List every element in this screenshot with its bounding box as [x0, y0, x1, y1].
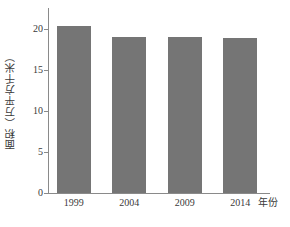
x-tick-label: 2009 [175, 198, 195, 208]
x-tick-label: 2014 [230, 198, 250, 208]
bar-chart: 面积（万平方千米） 05101520 1999200420092014 年份 [0, 0, 290, 227]
y-tick-mark [44, 29, 48, 30]
y-tick-label: 0 [38, 188, 43, 198]
y-axis-line [48, 8, 49, 194]
bar [168, 37, 202, 193]
y-tick-mark [44, 111, 48, 112]
x-axis-title: 年份 [258, 198, 278, 208]
y-tick-label: 15 [33, 65, 43, 75]
y-tick-mark [44, 152, 48, 153]
y-tick-label: 5 [38, 147, 43, 157]
y-axis-title: 面积（万平方千米） [2, 0, 20, 200]
plot-area: 05101520 1999200420092014 [48, 8, 270, 194]
y-tick-mark [44, 193, 48, 194]
y-tick-mark [44, 70, 48, 71]
bar [112, 37, 146, 193]
x-tick-label: 1999 [64, 198, 84, 208]
y-tick-label: 10 [33, 106, 43, 116]
bar [223, 38, 257, 193]
x-tick-label: 2004 [119, 198, 139, 208]
y-tick-label: 20 [33, 24, 43, 34]
bar [57, 26, 91, 193]
y-axis-title-text: 面积（万平方千米） [6, 51, 17, 150]
x-axis-line [48, 193, 270, 194]
